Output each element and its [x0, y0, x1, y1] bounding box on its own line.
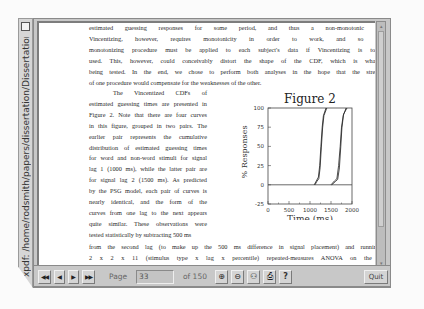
prev-page-button[interactable]: ◀	[54, 270, 65, 284]
window-title: xpdf: /home/rodsmith/papers/dissertation…	[20, 37, 32, 277]
binoculars-icon: ⚇	[250, 272, 257, 281]
help-button[interactable]: ?	[279, 270, 292, 284]
zoom-in-icon: ⊕	[218, 272, 225, 281]
quit-button[interactable]: Quit	[364, 270, 388, 284]
svg-text:1000: 1000	[303, 207, 317, 213]
svg-text:500: 500	[284, 207, 295, 213]
svg-text:0: 0	[261, 182, 265, 188]
text-line: monotonizing procedure must be applied t…	[89, 45, 375, 56]
document-page[interactable]: estimated guessing responses for some pe…	[37, 21, 375, 269]
pdf-viewer-window: estimated guessing responses for some pe…	[33, 18, 391, 288]
print-button[interactable]: ⎙	[263, 270, 276, 284]
svg-text:-25: -25	[255, 201, 264, 207]
first-page-button[interactable]: ◀◀	[38, 270, 51, 284]
svg-text:75: 75	[257, 124, 264, 130]
text-line: from the second lag (to make up the 500 …	[89, 242, 375, 253]
text-line: of one procedure would compensate for th…	[89, 78, 375, 89]
text-line: for signal lag 2 (1500 ms). As predicted	[89, 175, 207, 186]
find-button[interactable]: ⚇	[247, 270, 260, 284]
paragraph-top: estimated guessing responses for some pe…	[89, 23, 375, 88]
text-line: tested statistically by subtracting 500 …	[89, 230, 207, 241]
help-icon: ?	[283, 272, 288, 281]
text-line: estimated guessing times are presented i…	[89, 99, 207, 110]
text-line: in this figure, grouped in two pairs. Th…	[89, 121, 207, 132]
text-line: distribution of estimated guessing times	[89, 143, 207, 154]
text-line: by the PSG model, each pair of curves is	[89, 186, 207, 197]
svg-text:2000: 2000	[345, 207, 359, 213]
text-line: curves from one lag to the next appears	[89, 208, 207, 219]
text-line: lag 1 (1000 ms), while the latter pair a…	[89, 164, 207, 175]
svg-text:% Responses: % Responses	[240, 125, 249, 178]
window-title-tab[interactable]: xpdf: /home/rodsmith/papers/dissertation…	[18, 18, 33, 288]
text-line: nearly identical, and the form of the	[89, 197, 207, 208]
printer-icon: ⎙	[267, 272, 273, 281]
zoom-in-button[interactable]: ⊕	[215, 270, 228, 284]
next-page-button[interactable]: ▶	[68, 270, 79, 284]
svg-text:Time (ms): Time (ms)	[287, 214, 333, 220]
text-line: used. This, however, could conceivably d…	[89, 56, 375, 67]
svg-text:50: 50	[257, 143, 264, 149]
text-line: for word and non-word stimuli for signal	[89, 153, 207, 164]
zoom-out-button[interactable]: ⊖	[231, 270, 244, 284]
chart-plot: -2502550751000500100015002000Time (ms)% …	[219, 92, 369, 220]
scroll-up-icon[interactable]: ▴	[378, 23, 384, 30]
svg-text:100: 100	[254, 105, 265, 111]
page-label: Page	[109, 272, 127, 281]
page-number-input[interactable]: 33	[136, 270, 174, 284]
last-page-button[interactable]: ▶▶	[82, 270, 95, 284]
page-count: of 150	[183, 272, 207, 281]
toolbar: ◀◀ ◀ ▶ ▶▶ Page 33 of 150 ⊕ ⊖ ⚇ ⎙ ? Quit	[33, 265, 391, 287]
text-line: The Vincentized CDFs of	[89, 88, 207, 99]
svg-text:1500: 1500	[324, 207, 338, 213]
text-line: Vincentizing, however, requires monotoni…	[89, 34, 375, 45]
zoom-out-icon: ⊖	[234, 272, 241, 281]
vertical-scroll-thumb[interactable]	[378, 31, 384, 227]
text-line: quite similar. These observations were	[89, 219, 207, 230]
text-line: Figure 2. Note that there are four curve…	[89, 110, 207, 121]
paragraph-left-column: The Vincentized CDFs of estimated guessi…	[89, 88, 207, 241]
close-box-icon[interactable]	[21, 22, 30, 31]
text-line: estimated guessing responses for some pe…	[89, 23, 375, 34]
text-line: earlier pair represents the cumulative	[89, 132, 207, 143]
vertical-scrollbar[interactable]: ▴ ▾	[376, 21, 386, 269]
svg-text:25: 25	[257, 163, 264, 169]
svg-text:0: 0	[266, 207, 270, 213]
text-line: being tested. In the end, we chose to pe…	[89, 67, 375, 78]
figure-2-chart: Figure 2 -2502550751000500100015002000Ti…	[219, 92, 369, 220]
text-line: 2 x 2 x 11 (stimulus type x lag x percen…	[89, 253, 375, 264]
